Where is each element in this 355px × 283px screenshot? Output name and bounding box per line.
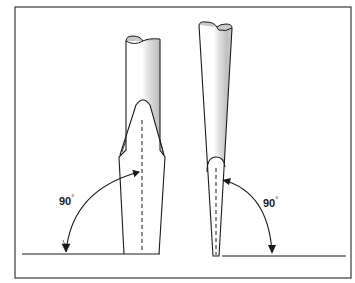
front-angle-value: 90 bbox=[59, 195, 71, 207]
front-angle-label: 90° bbox=[59, 195, 74, 207]
side-angle-label: 90° bbox=[263, 197, 278, 209]
front-view-screwdriver bbox=[119, 36, 165, 254]
side-angle-arc bbox=[223, 180, 272, 252]
diagram-canvas bbox=[0, 0, 355, 283]
side-angle-value: 90 bbox=[263, 197, 275, 209]
side-angle-unit: ° bbox=[275, 195, 278, 204]
side-view-screwdriver bbox=[199, 22, 232, 256]
front-angle-unit: ° bbox=[71, 193, 74, 202]
front-shaft-break bbox=[126, 36, 160, 41]
figure-frame bbox=[15, 7, 351, 278]
